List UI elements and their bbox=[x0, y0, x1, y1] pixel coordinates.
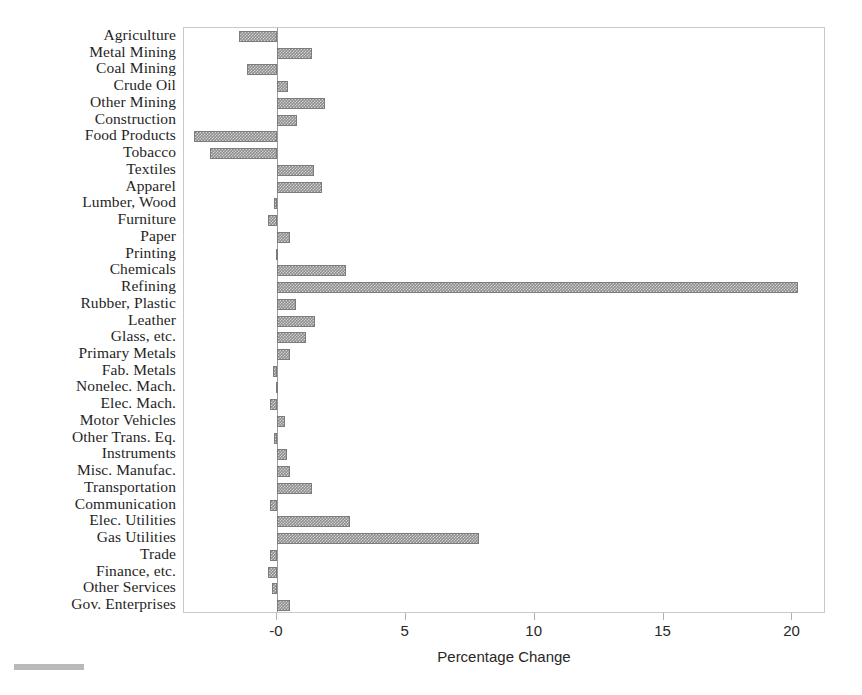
x-tick-mark bbox=[276, 613, 277, 620]
bar bbox=[273, 366, 277, 377]
x-tick-mark bbox=[405, 613, 406, 620]
category-label: Glass, etc. bbox=[0, 328, 176, 344]
bar bbox=[277, 182, 322, 193]
bar bbox=[270, 399, 276, 410]
x-tick-label: 10 bbox=[525, 622, 542, 639]
bars-layer bbox=[184, 28, 824, 612]
category-label: Furniture bbox=[0, 211, 176, 227]
x-tick-label: -0 bbox=[269, 622, 282, 639]
bar bbox=[277, 81, 289, 92]
category-label: Apparel bbox=[0, 178, 176, 194]
category-label: Textiles bbox=[0, 161, 176, 177]
category-label: Primary Metals bbox=[0, 345, 176, 361]
category-label: Motor Vehicles bbox=[0, 412, 176, 428]
bar bbox=[277, 349, 290, 360]
x-tick-mark bbox=[791, 613, 792, 620]
category-label: Communication bbox=[0, 496, 176, 512]
category-label: Printing bbox=[0, 245, 176, 261]
category-label: Tobacco bbox=[0, 144, 176, 160]
bar bbox=[277, 98, 325, 109]
x-axis-ticks: -05101520 bbox=[183, 613, 825, 653]
x-axis-title: Percentage Change bbox=[183, 648, 825, 665]
bar bbox=[277, 332, 307, 343]
category-axis-labels: AgricultureMetal MiningCoal MiningCrude … bbox=[0, 27, 176, 613]
bar bbox=[270, 550, 276, 561]
category-label: Transportation bbox=[0, 479, 176, 495]
x-tick-mark bbox=[534, 613, 535, 620]
category-label: Trade bbox=[0, 546, 176, 562]
bar bbox=[277, 316, 316, 327]
category-label: Leather bbox=[0, 312, 176, 328]
category-label: Gov. Enterprises bbox=[0, 596, 176, 612]
plot-area bbox=[183, 27, 825, 613]
category-label: Construction bbox=[0, 111, 176, 127]
bar bbox=[276, 382, 278, 393]
bar bbox=[277, 299, 296, 310]
category-label: Paper bbox=[0, 228, 176, 244]
bar bbox=[274, 198, 277, 209]
category-label: Gas Utilities bbox=[0, 529, 176, 545]
x-tick-label: 15 bbox=[654, 622, 671, 639]
bar bbox=[277, 232, 290, 243]
chart-figure: AgricultureMetal MiningCoal MiningCrude … bbox=[0, 0, 862, 695]
bar bbox=[194, 131, 277, 142]
category-label: Refining bbox=[0, 278, 176, 294]
bar bbox=[247, 64, 277, 75]
bar bbox=[277, 483, 312, 494]
category-label: Nonelec. Mach. bbox=[0, 378, 176, 394]
bar bbox=[268, 567, 277, 578]
bar bbox=[277, 449, 287, 460]
category-label: Food Products bbox=[0, 127, 176, 143]
category-label: Fab. Metals bbox=[0, 362, 176, 378]
category-label: Crude Oil bbox=[0, 77, 176, 93]
category-label: Finance, etc. bbox=[0, 563, 176, 579]
bar bbox=[210, 148, 277, 159]
x-tick-mark bbox=[663, 613, 664, 620]
bar bbox=[239, 31, 276, 42]
category-label: Metal Mining bbox=[0, 44, 176, 60]
category-label: Agriculture bbox=[0, 27, 176, 43]
category-label: Elec. Utilities bbox=[0, 512, 176, 528]
category-label: Lumber, Wood bbox=[0, 194, 176, 210]
bar bbox=[277, 466, 290, 477]
category-label: Instruments bbox=[0, 445, 176, 461]
x-tick-label: 20 bbox=[783, 622, 800, 639]
bar bbox=[277, 516, 350, 527]
caption-rule bbox=[14, 664, 84, 670]
bar bbox=[277, 48, 312, 59]
category-label: Coal Mining bbox=[0, 60, 176, 76]
bar bbox=[277, 416, 285, 427]
category-label: Other Mining bbox=[0, 94, 176, 110]
bar bbox=[274, 433, 277, 444]
bar bbox=[277, 533, 479, 544]
bar bbox=[277, 282, 798, 293]
bar bbox=[277, 600, 290, 611]
x-tick-label: 5 bbox=[401, 622, 409, 639]
category-label: Other Trans. Eq. bbox=[0, 429, 176, 445]
category-label: Other Services bbox=[0, 579, 176, 595]
bar bbox=[277, 115, 298, 126]
bar bbox=[270, 500, 276, 511]
bar bbox=[272, 583, 277, 594]
category-label: Misc. Manufac. bbox=[0, 462, 176, 478]
bar bbox=[276, 249, 278, 260]
bar bbox=[277, 165, 314, 176]
category-label: Chemicals bbox=[0, 261, 176, 277]
category-label: Elec. Mach. bbox=[0, 395, 176, 411]
bar bbox=[277, 265, 347, 276]
category-label: Rubber, Plastic bbox=[0, 295, 176, 311]
bar bbox=[268, 215, 277, 226]
